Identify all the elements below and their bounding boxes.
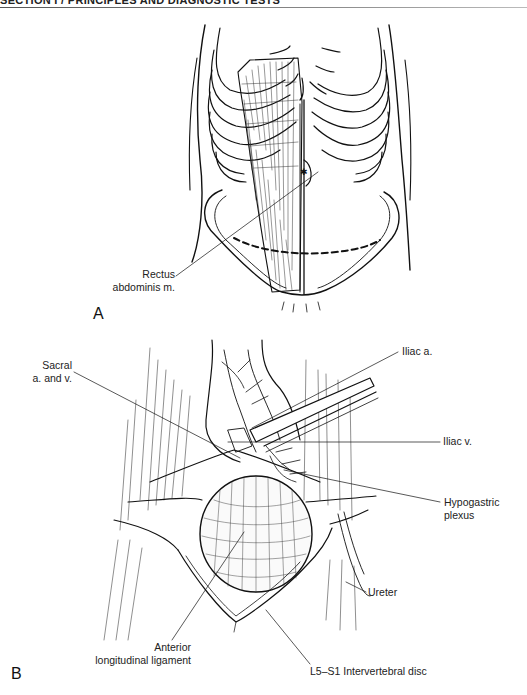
panel-b-illustration: [0, 0, 527, 695]
label-line: plexus: [444, 509, 499, 522]
label-sacral-artery-vein: Sacral a. and v.: [20, 359, 72, 385]
label-line: Iliac a.: [402, 345, 432, 358]
label-anterior-longitudinal-ligament: Anterior longitudinal ligament: [90, 641, 191, 667]
panel-letter-a: A: [93, 305, 104, 323]
label-line: a. and v.: [20, 372, 72, 385]
label-rectus-abdominis: Rectus abdominis m.: [105, 268, 175, 294]
label-line: L5–S1 Intervertebral disc: [310, 665, 427, 678]
label-line: Sacral: [20, 359, 72, 372]
label-hypogastric-plexus: Hypogastric plexus: [444, 496, 499, 522]
label-line: abdominis m.: [105, 281, 175, 294]
label-line: longitudinal ligament: [90, 654, 191, 667]
label-line: Iliac v.: [443, 435, 472, 448]
panel-letter-b: B: [11, 665, 22, 683]
label-line: Anterior: [90, 641, 191, 654]
label-iliac-artery: Iliac a.: [402, 345, 432, 358]
label-line: Rectus: [105, 268, 175, 281]
anatomical-figure: ✱: [0, 0, 527, 695]
label-iliac-vein: Iliac v.: [443, 435, 472, 448]
label-line: Hypogastric: [444, 496, 499, 509]
label-l5-s1-disc: L5–S1 Intervertebral disc: [310, 665, 427, 678]
label-ureter: Ureter: [368, 586, 397, 599]
label-line: Ureter: [368, 586, 397, 599]
